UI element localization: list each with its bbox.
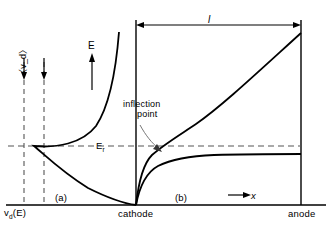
length-arrow-right-head bbox=[293, 22, 301, 28]
position-axis-arrow-head bbox=[243, 192, 251, 198]
field-axis-arrow-head bbox=[89, 53, 95, 62]
inflection-point-label-line1: inflection bbox=[123, 99, 161, 109]
panel-b-label: (b) bbox=[175, 192, 187, 203]
mean-drift-velocity-label: 〈v_d〉 bbox=[16, 44, 29, 78]
panel-a-label: (a) bbox=[55, 192, 67, 203]
drift-arrow-right-head bbox=[41, 72, 47, 80]
reference-field-label: Er bbox=[96, 140, 105, 153]
position-axis-label: x bbox=[251, 190, 256, 201]
cathode-label: cathode bbox=[118, 208, 153, 219]
anode-label: anode bbox=[288, 208, 315, 219]
field-axis-label: E bbox=[88, 40, 95, 51]
gap-length-label: l bbox=[208, 14, 210, 25]
length-arrow-left-head bbox=[136, 22, 144, 28]
upper-field-profile-curve bbox=[136, 33, 301, 205]
field-profile-figure bbox=[0, 0, 330, 235]
drift-velocity-curve bbox=[34, 32, 136, 205]
inflection-point-leader-line bbox=[140, 125, 158, 148]
saturated-field-profile-curve bbox=[136, 154, 301, 205]
drift-velocity-function-label: vd(E) bbox=[4, 207, 26, 220]
inflection-point-label-line2: point bbox=[137, 109, 158, 119]
